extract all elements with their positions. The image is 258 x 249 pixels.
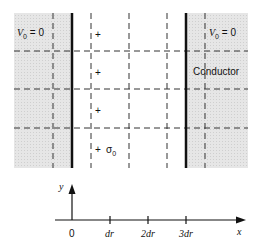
x-axis-label: x (236, 226, 242, 237)
y-axis-label: y (58, 181, 64, 192)
surface-charge-label: σ0 (106, 144, 116, 157)
vertical-grid-lines (53, 13, 205, 168)
charge-plus-2: + (95, 67, 101, 78)
coordinate-axes (55, 184, 246, 224)
tick-label-dr: dr (105, 228, 114, 239)
tick-label-2dr: 2dr (141, 228, 155, 239)
charge-plus-4: + (95, 144, 101, 155)
grid-diagram: V0 = 0 V0 = 0 Conductor + + + + σ0 y x 0… (0, 0, 258, 249)
tick-label-0: 0 (69, 228, 75, 239)
charge-plus-1: + (95, 29, 101, 40)
tick-label-3dr: 3dr (178, 228, 193, 239)
charge-plus-3: + (95, 105, 101, 116)
conductor-label: Conductor (193, 66, 240, 77)
